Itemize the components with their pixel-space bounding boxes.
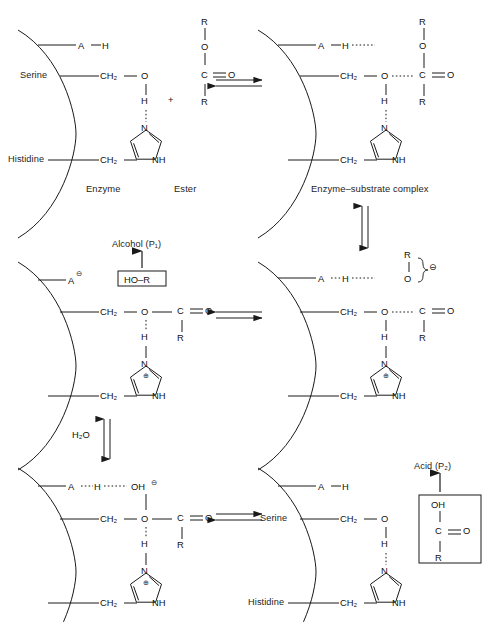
p1-plus-sign: + [168,95,173,104]
p6-product-name: Acid (P₂) [414,462,451,471]
p3-substrate-o-double: O [447,306,454,315]
p6-ser-ch2: CH₂ [340,514,357,523]
p3-imidazole-n-charge: ⊕ [383,372,389,380]
p2-substrate-o-top: O [419,41,426,50]
p1-histidine-label: Histidine [8,155,44,164]
p4-acid-base-charge: ⊖ [76,269,82,278]
p3-bracket-r: R [404,250,411,259]
p6-serine-label: Serine [260,514,287,523]
p6-product-o-double: O [463,526,470,535]
p5-substrate-c: C [177,513,184,522]
p5-ser-hydrogen: H [141,539,148,548]
p3-acid-base-h: H [342,274,349,283]
p4-his-ch2: CH₂ [100,391,117,400]
p1-ser-ch2: CH₂ [100,71,117,80]
p4-ser-hydrogen: H [141,332,148,341]
p1-substrate-r-top: R [201,17,208,26]
p6-imidazole-n: N [381,566,388,575]
p5-hydroxide: OH [131,482,145,491]
p6-product-c: C [435,526,442,535]
p3-substrate-r-bottom: R [419,333,426,342]
p1-substrate-o-top: O [201,42,208,51]
p4-substrate-c: C [177,306,184,315]
p3-acid-base-label: A [318,274,324,283]
p4-ser-ch2: CH₂ [100,307,117,316]
p3-ser-ch2: CH₂ [340,307,357,316]
p6-product-r: R [435,553,442,562]
p3-oxyanion-oxygen: O [404,274,411,283]
p1-substrate-o-double: O [228,70,235,79]
panel-top-left [18,28,226,238]
panel-middle-right [258,258,445,470]
p1-caption-enzyme: Enzyme [86,184,120,193]
p2-imidazole-n: N [381,123,388,132]
p3-his-ch2: CH₂ [340,391,357,400]
p6-imidazole-nh: NH [392,598,406,607]
p3-imidazole-n: N [381,359,388,368]
p6-ser-oxygen: O [381,514,388,523]
p4-ser-oxygen: O [141,307,148,316]
p5-imidazole-n-charge: ⊕ [143,579,149,587]
p2-ser-ch2: CH₂ [340,71,357,80]
p4-imidazole-n-charge: ⊕ [143,372,149,380]
p4-substrate-o-double: O [205,306,212,315]
arrow-row3-equilibrium [216,514,262,520]
p1-ser-hydrogen: H [141,96,148,105]
p1-acid-base-label: A [78,41,84,50]
p1-substrate-r-bottom: R [201,97,208,106]
panel-top-right [258,28,445,238]
p5-imidazole-n: N [141,566,148,575]
p6-his-ch2: CH₂ [340,598,357,607]
p6-acid-base-h: H [342,482,349,491]
p1-substrate-c: C [201,70,208,79]
p2-substrate-r-top: R [419,17,426,26]
p4-product-name: Alcohol (P₁) [112,240,161,249]
p3-ser-hydrogen: H [381,332,388,341]
water-label: H₂O [72,430,90,439]
p5-his-ch2: CH₂ [100,598,117,607]
p4-imidazole-nh: NH [152,391,166,400]
p5-substrate-r-bottom: R [177,540,184,549]
p3-substrate-c: C [419,306,426,315]
p2-substrate-c: C [419,70,426,79]
p4-imidazole-n: N [141,359,148,368]
p1-his-ch2: CH₂ [100,155,117,164]
p2-substrate-r-bottom: R [419,97,426,106]
p6-histidine-label: Histidine [248,598,284,607]
p1-serine-label: Serine [20,71,47,80]
p5-acid-base-h: H [94,482,101,491]
p6-acid-base-label: A [318,482,324,491]
p3-oxyanion-charge: ⊖ [429,262,437,272]
p2-acid-base-h: H [342,41,349,50]
p1-imidazole-n: N [141,123,148,132]
p5-acid-base-label: A [68,482,74,491]
p2-imidazole-nh: NH [392,155,406,164]
arrow-row2-equilibrium [216,312,262,318]
arrow-row1-equilibrium [216,80,262,86]
p1-acid-base-h: H [102,41,109,50]
p2-caption: Enzyme–substrate complex [311,184,429,193]
p1-imidazole-nh: NH [152,155,166,164]
p2-acid-base-label: A [318,41,324,50]
mechanism-figure: A H Serine CH₂ O H N NH Histidine CH₂ + … [0,0,486,622]
p5-ser-ch2: CH₂ [100,514,117,523]
p5-hydroxide-charge: ⊖ [151,478,157,487]
p3-imidazole-nh: NH [392,391,406,400]
p2-ser-oxygen: O [381,71,388,80]
p6-ser-hydrogen: H [381,539,388,548]
p4-product-formula: HO–R [124,275,150,284]
p5-substrate-o-double: O [205,513,212,522]
mechanism-vector-layer [0,0,486,622]
p2-his-ch2: CH₂ [340,155,357,164]
p5-imidazole-nh: NH [152,598,166,607]
panel-bottom-right [258,468,481,622]
arrow-right-vertical-equilibrium [362,206,368,248]
p6-product-oh: OH [431,500,445,509]
p5-ser-oxygen: O [141,514,148,523]
p2-substrate-o-double: O [447,70,454,79]
p4-acid-base-label: A [68,276,74,285]
p1-ser-oxygen: O [141,71,148,80]
arrow-left-vertical-equilibrium [104,419,110,459]
p3-ser-oxygen: O [381,307,388,316]
p1-caption-ester: Ester [174,184,196,193]
